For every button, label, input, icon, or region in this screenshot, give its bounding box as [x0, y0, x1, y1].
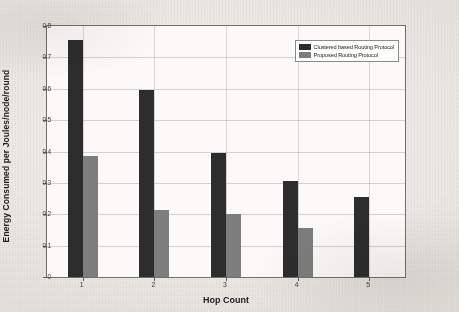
legend-label: Proposed Routing Protocol	[314, 52, 378, 58]
bar	[83, 156, 98, 277]
y-axis-tick-label: 0.4	[31, 147, 51, 154]
y-axis-tick-label: 0.2	[31, 210, 51, 217]
legend-swatch-icon	[299, 44, 311, 50]
y-axis-tick-label: 0.3	[31, 178, 51, 185]
y-axis-tick-label: 0.1	[31, 241, 51, 248]
gridline-vertical	[369, 26, 370, 277]
y-axis-tick-label: 0.6	[31, 84, 51, 91]
bar	[154, 210, 169, 277]
y-axis-label: Energy Consumed per Joules/node/round	[1, 70, 11, 243]
x-axis-tick-label: 2	[151, 281, 155, 288]
bar	[211, 153, 226, 277]
bar	[226, 214, 241, 277]
legend-item: Clustered based Routing Protocol	[299, 44, 394, 50]
legend: Clustered based Routing Protocol Propose…	[295, 40, 399, 62]
x-axis-tick-label: 1	[80, 281, 84, 288]
bar	[298, 228, 313, 277]
y-axis-tick-label: 0.7	[31, 53, 51, 60]
bar	[139, 90, 154, 277]
x-axis-label: Hop Count	[203, 295, 249, 305]
figure: Energy Consumed per Joules/node/round Cl…	[18, 12, 443, 300]
legend-label: Clustered based Routing Protocol	[314, 44, 394, 50]
bar	[68, 40, 83, 277]
y-axis-tick-label: 0.8	[31, 22, 51, 29]
x-axis-tick-label: 4	[295, 281, 299, 288]
y-axis-tick-label: 0	[31, 273, 51, 280]
bar	[354, 197, 369, 277]
x-axis-tick-label: 5	[366, 281, 370, 288]
legend-item: Proposed Routing Protocol	[299, 52, 394, 58]
chart-page: Energy Consumed per Joules/node/round Cl…	[0, 0, 459, 312]
plot-area: Clustered based Routing Protocol Propose…	[46, 25, 406, 278]
legend-swatch-icon	[299, 52, 311, 58]
bar	[283, 181, 298, 277]
x-axis-tick-label: 3	[223, 281, 227, 288]
y-axis-tick-label: 0.5	[31, 116, 51, 123]
